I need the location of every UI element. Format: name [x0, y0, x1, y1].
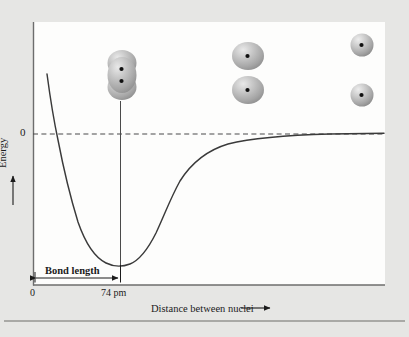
nucleus-dot	[119, 79, 123, 83]
bond-length-annotation-label: Bond length	[45, 266, 100, 277]
x-axis-origin-label: 0	[30, 288, 35, 298]
x-axis-bond-length-tick-label: 74 pm	[101, 288, 126, 298]
x-axis-title: Distance between nuclei	[151, 304, 254, 315]
orbital-overlap-region	[108, 57, 137, 93]
nucleus-dot	[359, 43, 363, 47]
nucleus-dot	[245, 88, 249, 92]
chart-graphics	[0, 0, 409, 337]
nucleus-dot	[359, 93, 363, 97]
potential-energy-curve	[47, 74, 384, 266]
nucleus-dot	[245, 54, 249, 58]
orbital-separated-atoms	[351, 34, 374, 107]
orbital-approaching-atoms	[232, 42, 264, 104]
nucleus-dot	[119, 67, 123, 71]
energy-distance-figure: 0 Energy 0 74 pm Bond length Distance be…	[0, 0, 409, 337]
y-axis-title: Energy	[0, 138, 9, 168]
y-axis-zero-tick-label: 0	[20, 127, 26, 138]
orbital-bonded-molecule	[108, 50, 137, 100]
